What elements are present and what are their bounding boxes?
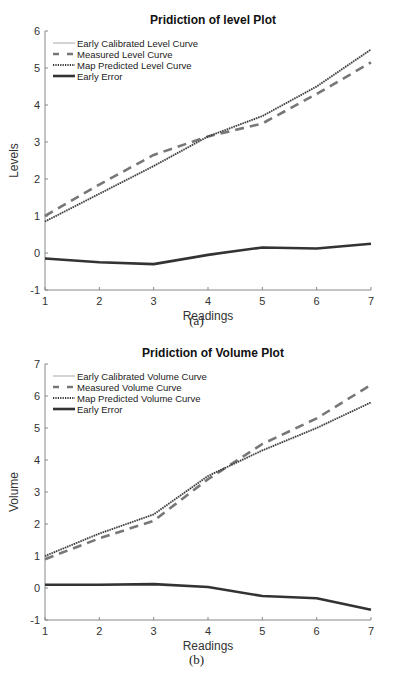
y-tick-label: 0	[34, 247, 40, 259]
y-tick-label: 5	[34, 422, 40, 434]
x-tick-label: 1	[42, 295, 48, 307]
x-tick-label: 4	[205, 625, 211, 637]
x-tick-label: 3	[151, 295, 157, 307]
y-tick-label: 2	[34, 518, 40, 530]
x-tick-label: 5	[259, 295, 265, 307]
legend-label: Early Error	[77, 71, 122, 82]
y-axis-label: Levels	[7, 143, 21, 178]
y-axis-label: Volume	[7, 472, 21, 512]
chart-volume: Pridiction of Volume Plot-10123456712345…	[7, 346, 374, 653]
chart-title: Pridiction of Volume Plot	[142, 346, 284, 360]
y-tick-label: 3	[34, 136, 40, 148]
legend-label: Early Calibrated Volume Curve	[77, 371, 207, 382]
y-tick-label: -1	[30, 614, 40, 626]
y-tick-label: 6	[34, 390, 40, 402]
y-tick-label: 4	[34, 454, 40, 466]
caption-b: (b)	[0, 652, 393, 668]
y-tick-label: -1	[30, 284, 40, 296]
y-tick-label: 0	[34, 582, 40, 594]
x-tick-label: 4	[205, 295, 211, 307]
legend: Early Calibrated Volume CurveMeasured Vo…	[53, 371, 207, 415]
y-tick-label: 5	[34, 62, 40, 74]
series-line-2	[45, 62, 371, 216]
legend-label: Early Calibrated Level Curve	[77, 38, 198, 49]
y-tick-label: 2	[34, 173, 40, 185]
charts-canvas: Pridiction of level Plot-101234561234567…	[0, 0, 393, 679]
y-tick-label: 1	[34, 550, 40, 562]
x-axis-label: Readings	[183, 639, 234, 653]
legend-label: Measured Volume Curve	[77, 382, 182, 393]
y-tick-label: 3	[34, 486, 40, 498]
caption-a: (a)	[0, 313, 393, 329]
y-tick-label: 7	[34, 358, 40, 370]
x-tick-label: 3	[151, 625, 157, 637]
x-tick-label: 2	[96, 295, 102, 307]
series-line-4	[45, 244, 371, 264]
legend-label: Map Predicted Volume Curve	[77, 393, 201, 404]
chart-title: Pridiction of level Plot	[150, 13, 276, 27]
legend: Early Calibrated Level CurveMeasured Lev…	[53, 38, 198, 82]
x-tick-label: 6	[314, 625, 320, 637]
legend-label: Early Error	[77, 404, 122, 415]
y-tick-label: 6	[34, 25, 40, 37]
x-tick-label: 2	[96, 625, 102, 637]
x-tick-label: 6	[314, 295, 320, 307]
y-tick-label: 1	[34, 210, 40, 222]
legend-label: Map Predicted Level Curve	[77, 60, 192, 71]
legend-label: Measured Level Curve	[77, 49, 173, 60]
series-line-4	[45, 584, 371, 610]
x-tick-label: 1	[42, 625, 48, 637]
x-tick-label: 5	[259, 625, 265, 637]
x-tick-label: 7	[368, 295, 374, 307]
y-tick-label: 4	[34, 99, 40, 111]
chart-level: Pridiction of level Plot-101234561234567…	[7, 13, 374, 323]
x-tick-label: 7	[368, 625, 374, 637]
